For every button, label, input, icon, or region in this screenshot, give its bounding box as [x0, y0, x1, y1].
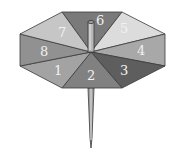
section-label-1: 1 [54, 63, 62, 78]
spinner-pole [88, 20, 94, 52]
section-label-7: 7 [58, 25, 66, 40]
section-label-6: 6 [96, 13, 104, 28]
spinner-svg: 65432187 [0, 0, 175, 154]
section-label-3: 3 [120, 63, 128, 78]
section-label-4: 4 [137, 43, 145, 58]
spinner-spike [88, 88, 94, 148]
section-label-5: 5 [120, 21, 128, 36]
pole-cap [88, 20, 94, 23]
section-label-8: 8 [40, 44, 48, 59]
section-label-2: 2 [87, 68, 95, 83]
pole-shaft [88, 22, 94, 52]
spinner-diagram: 65432187 [0, 0, 175, 154]
